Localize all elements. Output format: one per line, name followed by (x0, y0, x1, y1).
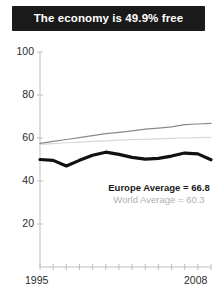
plot-area (0, 0, 217, 287)
x-axis-label-end: 2008 (184, 275, 207, 286)
legend-entry-world-average: World Average = 60.3 (104, 194, 214, 206)
y-axis-label-80: 80 (8, 89, 34, 100)
axis-lines (40, 52, 211, 267)
legend-entry-europe-average: Europe Average = 66.8 (104, 182, 214, 194)
series-lines (40, 123, 211, 166)
x-axis-label-start: 1995 (25, 275, 48, 286)
y-axis-label-20: 20 (8, 218, 34, 229)
y-axis-label-40: 40 (8, 175, 34, 186)
chart-figure: The economy is 49.9% free 100 80 60 40 2… (0, 0, 217, 287)
series-line-country (40, 152, 211, 166)
y-axis-label-60: 60 (8, 132, 34, 143)
y-axis-label-100: 100 (8, 46, 34, 57)
series-line-world-average (40, 137, 211, 144)
chart-legend: Europe Average = 66.8 World Average = 60… (104, 182, 214, 206)
